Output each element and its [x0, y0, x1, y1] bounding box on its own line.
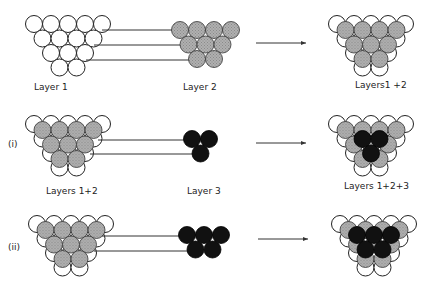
label-layer1: Layer 1 — [34, 82, 68, 92]
label-layer2: Layer 2 — [183, 82, 217, 92]
marker-ii: (ii) — [8, 242, 20, 252]
layer3-spheres — [184, 131, 218, 163]
row-3: (ii) — [8, 216, 417, 277]
sphere-packing-diagram: Layer 1 Layer 2 Layers1 +2 (i) Layers 1+… — [0, 0, 423, 289]
row-2: (i) Layers 1+2 Layer 3 Layers 1+2+3 — [8, 116, 414, 197]
label-layer3: Layer 3 — [187, 186, 221, 196]
layer2-spheres — [172, 22, 240, 68]
layer1-spheres — [26, 16, 111, 77]
layer3-alt-spheres — [179, 227, 230, 259]
marker-i: (i) — [8, 139, 18, 149]
label-layers-1-2-3: Layers 1+2+3 — [344, 181, 409, 191]
label-layers-1-2: Layers1 +2 — [355, 80, 407, 90]
label-layers-1-2: Layers 1+2 — [46, 186, 98, 196]
row-1: Layer 1 Layer 2 Layers1 +2 — [26, 16, 414, 93]
